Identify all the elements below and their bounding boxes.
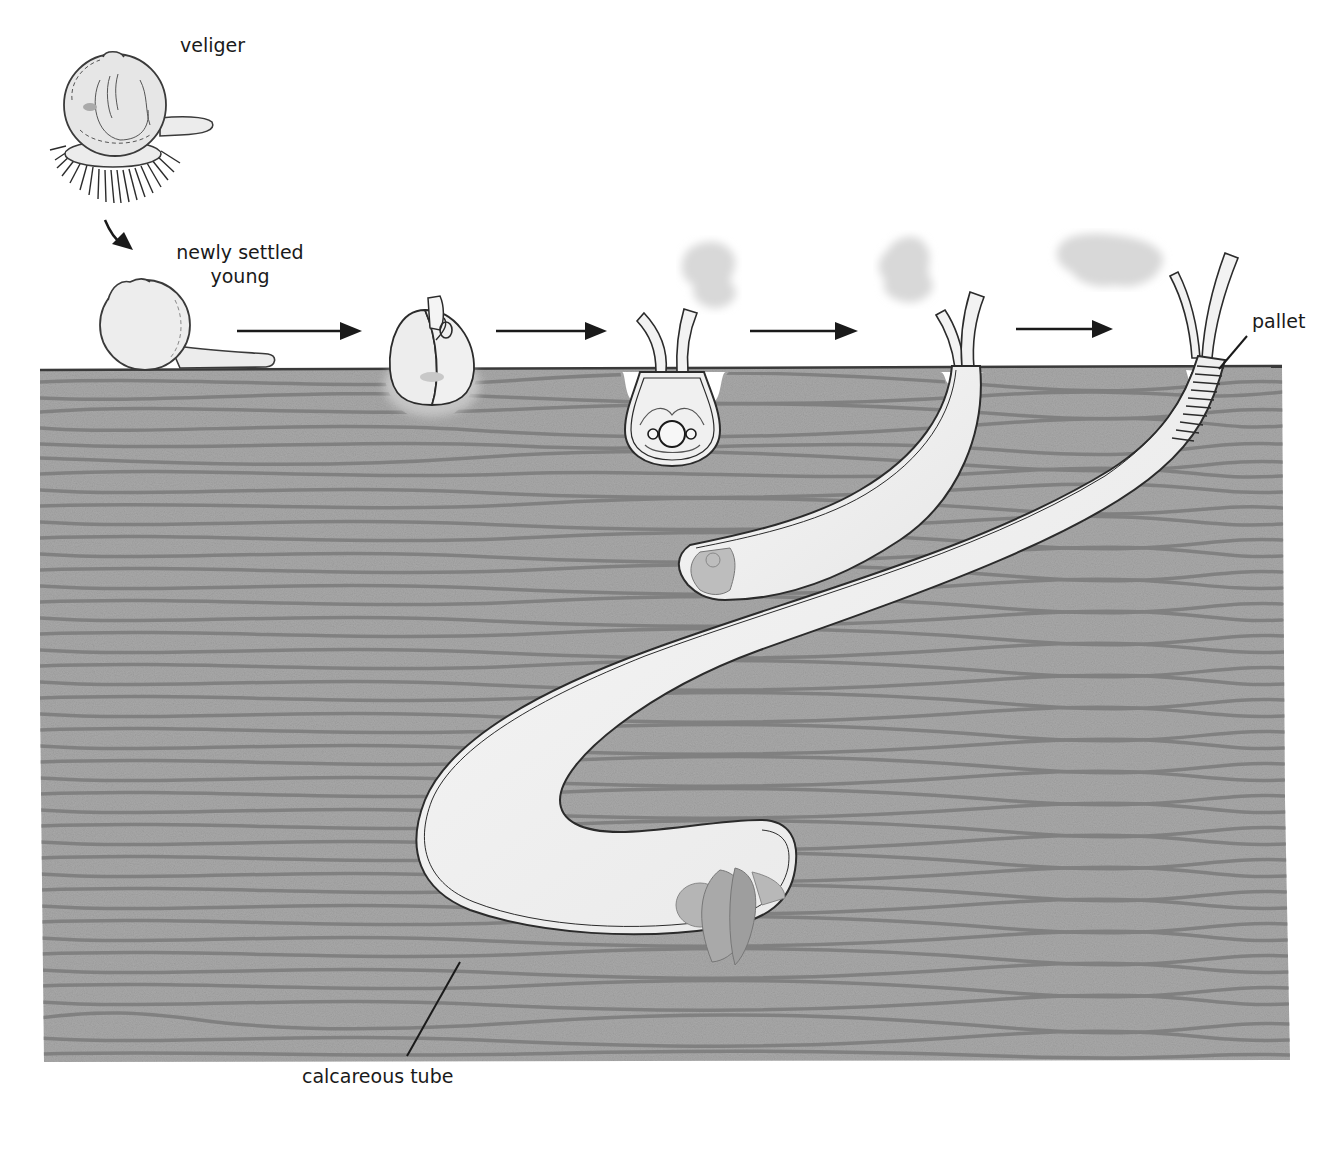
arrow-metamorphosing-to-burrow xyxy=(496,322,607,340)
label-veliger: veliger xyxy=(180,34,245,56)
early-burrow-illustration xyxy=(625,242,736,466)
settled-young-illustration xyxy=(100,279,275,370)
pallet-leader-line xyxy=(1219,336,1247,369)
label-pallet: pallet xyxy=(1252,310,1305,332)
shipworm-lifecycle-diagram: veliger newly settled young xyxy=(0,0,1342,1153)
label-calcareous-tube: calcareous tube xyxy=(302,1065,453,1087)
arrow-veliger-to-settled xyxy=(105,220,133,250)
diagram-canvas: veliger newly settled young xyxy=(0,0,1342,1153)
label-young: young xyxy=(210,265,269,287)
arrow-juvenile-to-adult xyxy=(1016,320,1113,338)
label-newly-settled: newly settled xyxy=(176,241,303,263)
wood-block xyxy=(40,366,1290,1062)
arrow-burrow-to-juvenile xyxy=(750,322,858,340)
arrow-settled-to-metamorphosing xyxy=(237,322,362,340)
veliger-larva-illustration xyxy=(50,52,213,203)
metamorphosing-young-illustration xyxy=(384,296,480,417)
